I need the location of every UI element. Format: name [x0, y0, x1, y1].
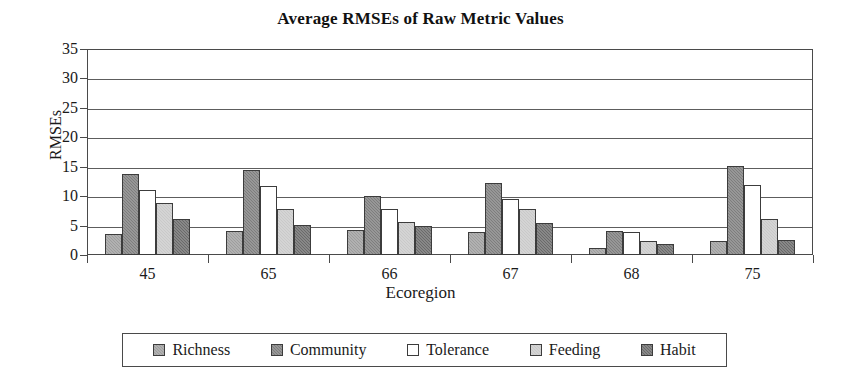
y-tick-label-35: 35 — [44, 41, 78, 57]
legend-item-community[interactable]: Community — [271, 341, 366, 359]
bar-feeding-67 — [519, 209, 536, 255]
x-axis-title: Ecoregion — [0, 283, 841, 303]
x-tick-mark-1 — [208, 255, 209, 263]
bar-tolerance-67 — [502, 199, 519, 255]
legend-item-habit[interactable]: Habit — [641, 341, 696, 359]
bar-tolerance-75 — [744, 185, 761, 255]
bar-habit-68 — [657, 244, 674, 255]
bar-community-75 — [727, 166, 744, 255]
bar-tolerance-68 — [623, 232, 640, 255]
bar-community-45 — [122, 174, 139, 255]
chart-legend: RichnessCommunityToleranceFeedingHabit — [122, 333, 727, 367]
y-tick-label-5: 5 — [44, 218, 78, 234]
legend-item-feeding[interactable]: Feeding — [530, 341, 601, 359]
y-axis: 05101520253035 — [0, 0, 78, 388]
bar-richness-65 — [226, 231, 243, 255]
bar-feeding-65 — [277, 209, 294, 255]
y-tick-mark-20 — [80, 137, 87, 138]
legend-label-community: Community — [290, 341, 366, 359]
bar-tolerance-65 — [260, 186, 277, 255]
bar-habit-65 — [294, 225, 311, 255]
legend-label-habit: Habit — [660, 341, 696, 359]
bar-richness-75 — [710, 241, 727, 255]
y-tick-label-20: 20 — [44, 129, 78, 145]
bar-community-68 — [606, 231, 623, 255]
bar-feeding-68 — [640, 241, 657, 255]
chart-title: Average RMSEs of Raw Metric Values — [0, 9, 841, 29]
bar-richness-45 — [105, 234, 122, 255]
y-tick-label-25: 25 — [44, 100, 78, 116]
bar-community-65 — [243, 170, 260, 255]
bar-community-66 — [364, 196, 381, 255]
y-tick-mark-5 — [80, 226, 87, 227]
x-tick-label-65: 65 — [229, 265, 309, 283]
legend-label-feeding: Feeding — [549, 341, 601, 359]
bar-tolerance-45 — [139, 190, 156, 255]
legend-swatch-tolerance-icon — [407, 344, 419, 356]
y-tick-mark-0 — [80, 255, 87, 256]
bar-habit-45 — [173, 219, 190, 255]
y-tick-label-30: 30 — [44, 70, 78, 86]
legend-label-tolerance: Tolerance — [426, 341, 489, 359]
x-tick-label-68: 68 — [592, 265, 672, 283]
legend-swatch-community-icon — [271, 344, 283, 356]
x-tick-mark-3 — [450, 255, 451, 263]
bar-richness-68 — [589, 248, 606, 255]
y-tick-label-15: 15 — [44, 159, 78, 175]
bar-habit-67 — [536, 223, 553, 255]
bar-feeding-66 — [398, 222, 415, 255]
y-tick-mark-35 — [80, 49, 87, 50]
legend-swatch-habit-icon — [641, 344, 653, 356]
y-tick-mark-30 — [80, 78, 87, 79]
y-tick-label-10: 10 — [44, 188, 78, 204]
x-tick-label-66: 66 — [350, 265, 430, 283]
legend-swatch-feeding-icon — [530, 344, 542, 356]
bar-series-layer — [87, 49, 813, 255]
legend-item-richness[interactable]: Richness — [153, 341, 230, 359]
y-tick-mark-15 — [80, 167, 87, 168]
y-tick-label-0: 0 — [44, 247, 78, 263]
y-tick-mark-10 — [80, 196, 87, 197]
bar-habit-66 — [415, 226, 432, 255]
chart-figure: Average RMSEs of Raw Metric Values RMSEs… — [0, 0, 841, 388]
bar-richness-67 — [468, 232, 485, 255]
legend-swatch-richness-icon — [153, 344, 165, 356]
legend-item-tolerance[interactable]: Tolerance — [407, 341, 489, 359]
x-tick-mark-6 — [813, 255, 814, 263]
legend-label-richness: Richness — [172, 341, 230, 359]
x-tick-mark-4 — [571, 255, 572, 263]
x-tick-label-67: 67 — [471, 265, 551, 283]
bar-habit-75 — [778, 240, 795, 255]
x-tick-mark-0 — [87, 255, 88, 263]
bar-richness-66 — [347, 230, 364, 255]
bar-tolerance-66 — [381, 209, 398, 255]
bar-community-67 — [485, 183, 502, 255]
bar-feeding-75 — [761, 219, 778, 255]
x-tick-mark-2 — [329, 255, 330, 263]
x-tick-label-75: 75 — [713, 265, 793, 283]
bar-feeding-45 — [156, 203, 173, 255]
x-tick-mark-5 — [692, 255, 693, 263]
x-tick-label-45: 45 — [108, 265, 188, 283]
y-tick-mark-25 — [80, 108, 87, 109]
